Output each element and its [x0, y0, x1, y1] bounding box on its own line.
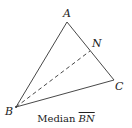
- point-b: [15, 106, 17, 108]
- diagram-caption: Median BN: [0, 113, 132, 124]
- median-bn: [16, 51, 90, 107]
- vertex-label-c: C: [115, 81, 123, 92]
- vertex-label-a: A: [63, 8, 71, 19]
- caption-prefix: Median: [37, 113, 78, 124]
- side-ab: [16, 22, 67, 107]
- side-ac: [67, 22, 114, 80]
- vertex-label-n: N: [92, 38, 102, 49]
- caption-segment: BN: [79, 113, 95, 124]
- side-bc: [16, 80, 114, 107]
